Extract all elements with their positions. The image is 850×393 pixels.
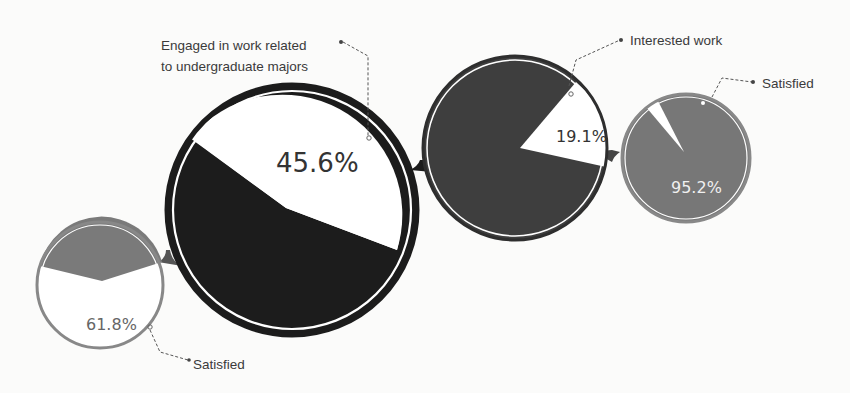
label-satisfied-right: Satisfied xyxy=(762,76,814,91)
value-satisfied-right: 95.2% xyxy=(671,178,722,197)
pie-engaged xyxy=(167,85,417,335)
label-engaged-line2: to undergraduate majors xyxy=(161,59,308,74)
chart-stage: 45.6% 19.1% 95.2% 61.8% Engaged in work … xyxy=(0,0,850,393)
value-engaged: 45.6% xyxy=(276,148,359,178)
circle-chain-chart: 45.6% 19.1% 95.2% 61.8% Engaged in work … xyxy=(0,0,850,393)
label-satisfied-left: Satisfied xyxy=(193,357,245,372)
label-interested: Interested work xyxy=(630,33,723,48)
value-interested: 19.1% xyxy=(556,127,607,146)
pie-satisfied-right xyxy=(622,94,750,222)
label-engaged-line1: Engaged in work related xyxy=(161,38,307,53)
pie-interested xyxy=(423,56,608,240)
value-satisfied-left: 61.8% xyxy=(86,315,137,334)
